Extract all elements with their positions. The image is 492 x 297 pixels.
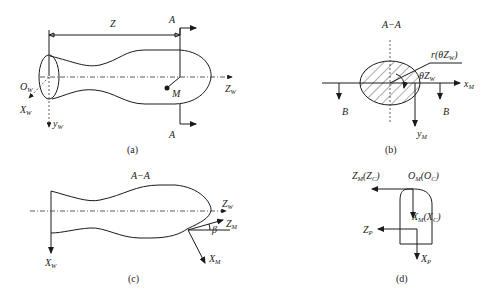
panel-a: Z A A M ZW OW XW yW (a) bbox=[19, 14, 237, 156]
radius-label: r(θZW) bbox=[431, 49, 458, 61]
section-label-b-right: B bbox=[443, 106, 449, 117]
y-axis-label: yW bbox=[52, 118, 63, 130]
x-m-label-d: XM(XC) bbox=[411, 211, 441, 223]
angle-label: θZW bbox=[419, 70, 435, 82]
x-w-label: XW bbox=[44, 257, 57, 269]
x-p-label: XP bbox=[420, 253, 431, 265]
z-w-label: ZW bbox=[222, 198, 234, 210]
caption-c: (c) bbox=[128, 273, 139, 285]
caption-b: (b) bbox=[385, 144, 397, 156]
section-arrow-top bbox=[180, 28, 196, 35]
distance-label-z: Z bbox=[110, 18, 116, 29]
z-axis-label: ZW bbox=[225, 83, 237, 95]
section-title-b: A−A bbox=[381, 19, 402, 30]
z-m-label: ZM bbox=[226, 218, 238, 230]
beta-angle-arc bbox=[209, 224, 210, 230]
x-m-axis-c bbox=[188, 230, 205, 263]
o-m-label: OM(OC) bbox=[408, 170, 440, 182]
y-m-label: yM bbox=[416, 128, 427, 140]
z-m-label-d: ZM(ZC) bbox=[352, 170, 380, 182]
x-m-label-c: XM bbox=[208, 253, 221, 265]
section-arrow-bottom bbox=[180, 104, 196, 124]
point-m-marker bbox=[165, 86, 170, 91]
section-label-top: A bbox=[168, 14, 176, 25]
section-title-c: A−A bbox=[130, 170, 151, 181]
z-m-axis bbox=[188, 220, 223, 230]
point-leader bbox=[168, 77, 180, 87]
beta-label: β bbox=[211, 224, 217, 235]
x-m-label: xM bbox=[463, 78, 474, 90]
figure-canvas: Z A A M ZW OW XW yW (a) bbox=[0, 0, 492, 297]
profile-outline bbox=[51, 185, 211, 238]
panel-c: A−A ZW ZM β XW XM (c) bbox=[30, 170, 238, 285]
section-label-bottom: A bbox=[168, 129, 176, 140]
section-label-b-left: B bbox=[342, 106, 348, 117]
caption-a: (a) bbox=[127, 144, 138, 156]
origin-label: OW bbox=[20, 81, 33, 93]
z-p-label: ZP bbox=[363, 224, 373, 236]
panel-b: A−A r(θZW) θZW xM yM B B (b) bbox=[322, 19, 474, 156]
panel-d: ZM(ZC) OM(OC) XM(XC) ZP XP (d) bbox=[352, 170, 441, 285]
x-axis-label: XW bbox=[19, 104, 32, 116]
point-label-m: M bbox=[171, 88, 181, 99]
caption-d: (d) bbox=[396, 273, 408, 285]
